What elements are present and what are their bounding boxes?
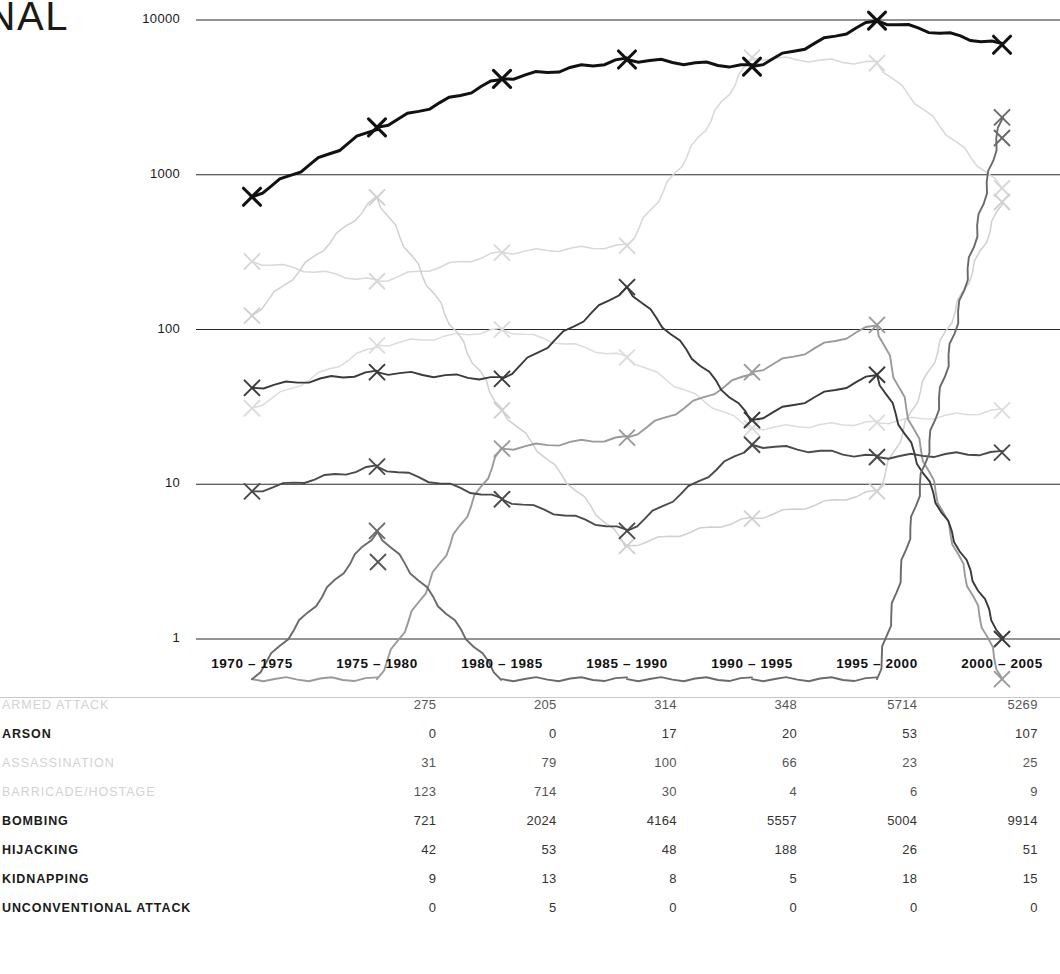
- cell-2-6: 30: [1054, 748, 1060, 777]
- cell-3-3: 4: [693, 777, 813, 806]
- cell-4-0: 721: [332, 806, 452, 835]
- cell-0-2: 314: [573, 690, 693, 719]
- series-armed-attack: [245, 50, 1010, 289]
- cell-1-1: 0: [452, 719, 572, 748]
- y-axis-tick-10: 10: [118, 475, 180, 490]
- y-axis-tick-100: 100: [118, 321, 180, 336]
- cell-5-5: 51: [933, 835, 1053, 864]
- cell-7-1: 5: [452, 893, 572, 922]
- table-top-rule: [0, 697, 1060, 698]
- table-row: BOMBING721202441645557500499146919: [0, 806, 1060, 835]
- cell-1-4: 53: [813, 719, 933, 748]
- cell-2-4: 23: [813, 748, 933, 777]
- cell-6-0: 9: [332, 864, 452, 893]
- cell-7-0: 0: [332, 893, 452, 922]
- cell-4-3: 5557: [693, 806, 813, 835]
- cell-0-3: 348: [693, 690, 813, 719]
- row-label: BOMBING: [0, 806, 332, 835]
- cell-6-5: 15: [933, 864, 1053, 893]
- cell-3-1: 714: [452, 777, 572, 806]
- cell-1-3: 20: [693, 719, 813, 748]
- cell-3-5: 9: [933, 777, 1053, 806]
- table-row: HIJACKING42534818826511: [0, 835, 1060, 864]
- cell-7-4: 0: [813, 893, 933, 922]
- y-axis-tick-1: 1: [118, 630, 180, 645]
- table-row: KIDNAPPING91385181516: [0, 864, 1060, 893]
- row-label: UNCONVENTIONAL ATTACK: [0, 893, 332, 922]
- y-axis-tick-1000: 1000: [118, 166, 180, 181]
- line-chart: 110100100010000 1970 – 19751975 – 198019…: [0, 0, 1060, 700]
- cell-1-0: 0: [332, 719, 452, 748]
- row-label: HIJACKING: [0, 835, 332, 864]
- series-hijacking: [245, 280, 1010, 647]
- cell-7-2: 0: [573, 893, 693, 922]
- row-label: ASSASSINATION: [0, 748, 332, 777]
- cell-7-6: 2350: [1054, 893, 1060, 922]
- cell-5-0: 42: [332, 835, 452, 864]
- page-root: ONAL 2005 THOSE AD 110100100010000 1970 …: [0, 0, 1060, 974]
- row-label: ARMED ATTACK: [0, 690, 332, 719]
- cell-0-1: 205: [452, 690, 572, 719]
- cell-1-2: 17: [573, 719, 693, 748]
- cell-5-1: 53: [452, 835, 572, 864]
- chart-canvas: [0, 0, 1060, 700]
- cell-7-5: 0: [933, 893, 1053, 922]
- cell-3-4: 6: [813, 777, 933, 806]
- table-row: ARSON001720531070: [0, 719, 1060, 748]
- cell-3-0: 123: [332, 777, 452, 806]
- data-table-wrapper: ARMED ATTACK27520531434857145269818ARSON…: [0, 690, 1060, 922]
- cell-6-6: 16: [1054, 864, 1060, 893]
- table-row: UNCONVENTIONAL ATTACK0500002350: [0, 893, 1060, 922]
- cell-2-5: 25: [933, 748, 1053, 777]
- cell-1-5: 107: [933, 719, 1053, 748]
- cell-4-5: 9914: [933, 806, 1053, 835]
- cell-1-6: 0: [1054, 719, 1060, 748]
- row-label: ARSON: [0, 719, 332, 748]
- cell-5-4: 26: [813, 835, 933, 864]
- data-table: ARMED ATTACK27520531434857145269818ARSON…: [0, 690, 1060, 922]
- y-axis-tick-10000: 10000: [118, 11, 180, 26]
- row-label: BARRICADE/HOSTAGE: [0, 777, 332, 806]
- table-row: BARRICADE/HOSTAGE12371430469667: [0, 777, 1060, 806]
- cell-0-0: 275: [332, 690, 452, 719]
- table-row: ASSASSINATION317910066232530: [0, 748, 1060, 777]
- cell-4-2: 4164: [573, 806, 693, 835]
- cell-0-6: 818: [1054, 690, 1060, 719]
- series-kidnapping: [245, 437, 1010, 538]
- cell-5-3: 188: [693, 835, 813, 864]
- cell-0-5: 5269: [933, 690, 1053, 719]
- series-bombing: [244, 12, 1011, 205]
- cell-7-3: 0: [693, 893, 813, 922]
- cell-6-1: 13: [452, 864, 572, 893]
- cell-5-6: 1: [1054, 835, 1060, 864]
- cell-4-6: 6919: [1054, 806, 1060, 835]
- cell-6-4: 18: [813, 864, 933, 893]
- table-row: ARMED ATTACK27520531434857145269818: [0, 690, 1060, 719]
- cell-0-4: 5714: [813, 690, 933, 719]
- cell-2-3: 66: [693, 748, 813, 777]
- marker-left-x-icon: [371, 555, 386, 570]
- x-axis-tick-6: 2000 – 2005: [927, 656, 1060, 671]
- cell-4-1: 2024: [452, 806, 572, 835]
- series-unconventional-attack: [252, 110, 1010, 681]
- cell-3-6: 667: [1054, 777, 1060, 806]
- row-label: KIDNAPPING: [0, 864, 332, 893]
- cell-4-4: 5004: [813, 806, 933, 835]
- cell-2-0: 31: [332, 748, 452, 777]
- cell-3-2: 30: [573, 777, 693, 806]
- cell-6-3: 5: [693, 864, 813, 893]
- cell-6-2: 8: [573, 864, 693, 893]
- cell-5-2: 48: [573, 835, 693, 864]
- cell-2-2: 100: [573, 748, 693, 777]
- cell-2-1: 79: [452, 748, 572, 777]
